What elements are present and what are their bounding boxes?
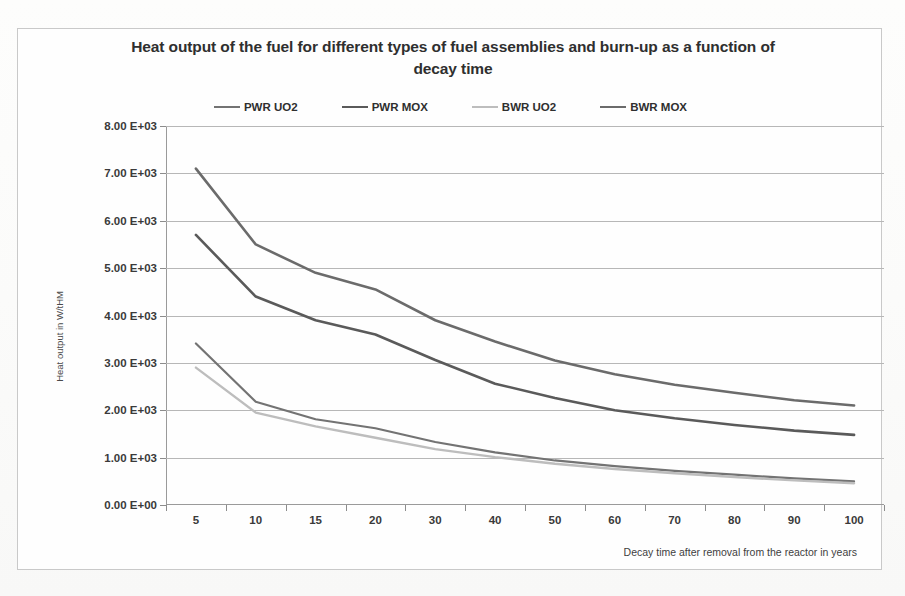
x-tick-mark xyxy=(226,505,227,511)
x-tick-label: 20 xyxy=(369,514,382,526)
y-axis-title: Heat output in W/tHM xyxy=(54,291,65,382)
legend-swatch-icon xyxy=(342,106,368,108)
x-tick-label: 50 xyxy=(549,514,562,526)
page-background: Heat output of the fuel for different ty… xyxy=(0,0,905,596)
chart-title: Heat output of the fuel for different ty… xyxy=(128,36,778,81)
x-tick-mark xyxy=(166,505,167,511)
x-tick-mark xyxy=(525,505,526,511)
x-tick-label: 80 xyxy=(728,514,741,526)
legend-item-bwr-uo2[interactable]: BWR UO2 xyxy=(472,101,556,113)
y-tick-label: 8.00 E+03 xyxy=(104,120,157,132)
x-tick-mark xyxy=(585,505,586,511)
x-tick-label: 30 xyxy=(429,514,442,526)
x-tick-label: 70 xyxy=(668,514,681,526)
x-axis-title: Decay time after removal from the reacto… xyxy=(624,546,857,558)
y-tick-label: 2.00 E+03 xyxy=(104,404,157,416)
series-layer xyxy=(166,126,884,505)
chart-frame: Heat output of the fuel for different ty… xyxy=(17,28,882,570)
legend-swatch-icon xyxy=(472,106,498,108)
y-tick-label: 1.00 E+03 xyxy=(104,452,157,464)
legend-item-pwr-mox[interactable]: PWR MOX xyxy=(342,101,428,113)
series-line-pwr-mox xyxy=(196,235,854,435)
y-tick-label: 0.00 E+00 xyxy=(104,499,157,511)
legend-label: PWR MOX xyxy=(372,101,428,113)
x-tick-label: 10 xyxy=(249,514,262,526)
x-tick-label: 100 xyxy=(844,514,863,526)
y-tick-label: 3.00 E+03 xyxy=(104,357,157,369)
x-tick-mark xyxy=(405,505,406,511)
x-tick-mark xyxy=(884,505,885,511)
x-tick-mark xyxy=(824,505,825,511)
series-line-bwr-mox xyxy=(196,169,854,406)
legend-item-pwr-uo2[interactable]: PWR UO2 xyxy=(214,101,298,113)
x-tick-mark xyxy=(645,505,646,511)
legend-swatch-icon xyxy=(600,106,626,108)
legend-label: BWR UO2 xyxy=(502,101,556,113)
x-tick-label: 60 xyxy=(608,514,621,526)
y-tick-label: 6.00 E+03 xyxy=(104,215,157,227)
y-tick-label: 4.00 E+03 xyxy=(104,310,157,322)
legend-label: PWR UO2 xyxy=(244,101,298,113)
legend-item-bwr-mox[interactable]: BWR MOX xyxy=(600,101,687,113)
series-line-bwr-uo2 xyxy=(196,368,854,484)
x-tick-mark xyxy=(286,505,287,511)
x-tick-label: 15 xyxy=(309,514,322,526)
x-tick-label: 5 xyxy=(193,514,199,526)
x-tick-mark xyxy=(764,505,765,511)
y-tick-label: 7.00 E+03 xyxy=(104,167,157,179)
x-tick-label: 40 xyxy=(489,514,502,526)
y-tick-label: 5.00 E+03 xyxy=(104,262,157,274)
x-tick-mark xyxy=(465,505,466,511)
x-tick-label: 90 xyxy=(788,514,801,526)
legend-swatch-icon xyxy=(214,106,240,108)
chart-legend: PWR UO2PWR MOXBWR UO2BWR MOX xyxy=(18,101,883,113)
x-tick-mark xyxy=(705,505,706,511)
plot-area: 8.00 E+037.00 E+036.00 E+035.00 E+034.00… xyxy=(166,126,884,505)
legend-label: BWR MOX xyxy=(630,101,687,113)
x-tick-mark xyxy=(346,505,347,511)
